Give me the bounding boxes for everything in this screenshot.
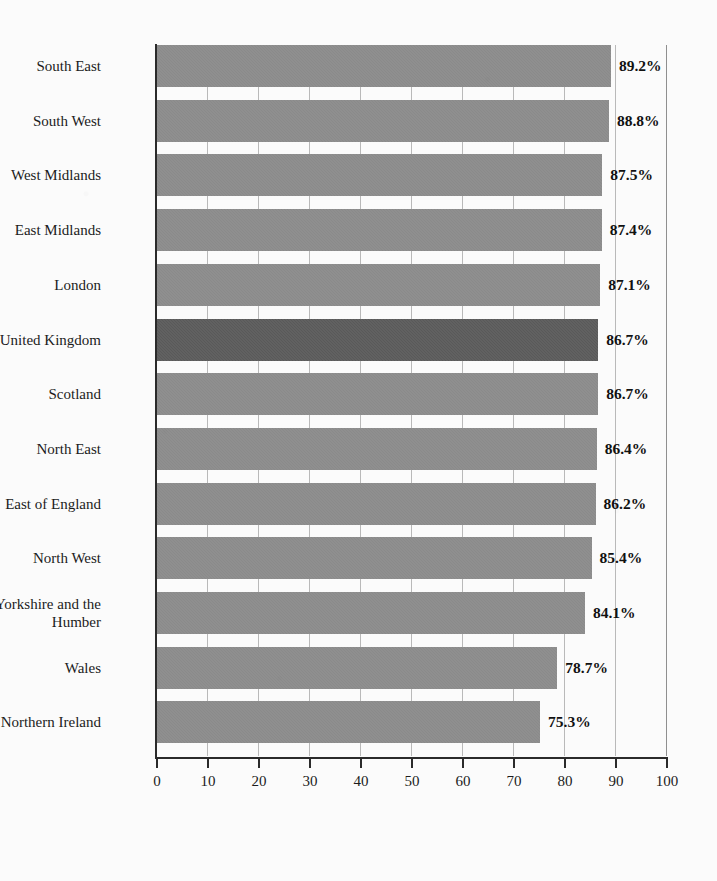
category-label: Wales <box>0 659 101 677</box>
value-label: 87.1% <box>608 276 651 294</box>
x-tick-50 <box>411 757 413 768</box>
bar-row: West Midlands87.5% <box>156 154 666 196</box>
value-label: 78.7% <box>565 659 608 677</box>
category-label: East of England <box>0 495 101 513</box>
category-label: North East <box>0 440 101 458</box>
bar-row: Wales78.7% <box>156 647 666 689</box>
bar-row: Scotland86.7% <box>156 373 666 415</box>
value-label: 86.4% <box>605 440 648 458</box>
bar[interactable] <box>156 483 596 525</box>
x-tick-label: 30 <box>288 772 332 790</box>
bar-chart: South East89.2%South West88.8%West Midla… <box>0 0 717 881</box>
value-label: 88.8% <box>617 112 660 130</box>
bar[interactable] <box>156 100 609 142</box>
bar[interactable] <box>156 592 585 634</box>
x-tick-0 <box>156 757 158 768</box>
bar[interactable] <box>156 209 602 251</box>
category-label: West Midlands <box>0 166 101 184</box>
bar-row: London87.1% <box>156 264 666 306</box>
plot-area: South East89.2%South West88.8%West Midla… <box>156 45 666 756</box>
bar[interactable] <box>156 537 592 579</box>
x-tick-label: 90 <box>594 772 638 790</box>
bar[interactable] <box>156 264 600 306</box>
value-label: 86.7% <box>606 385 649 403</box>
category-label: Northern Ireland <box>0 713 101 731</box>
x-tick-label: 0 <box>135 772 179 790</box>
x-tick-100 <box>666 757 668 768</box>
bar-row: North West85.4% <box>156 537 666 579</box>
value-label: 84.1% <box>593 604 636 622</box>
value-label: 87.5% <box>610 166 653 184</box>
x-tick-label: 10 <box>186 772 230 790</box>
value-label: 89.2% <box>619 57 662 75</box>
x-tick-40 <box>360 757 362 768</box>
value-label: 87.4% <box>610 221 653 239</box>
x-tick-label: 70 <box>492 772 536 790</box>
bar[interactable] <box>156 373 598 415</box>
gridline-100 <box>666 45 667 756</box>
value-label: 86.7% <box>606 331 649 349</box>
bar[interactable] <box>156 45 611 87</box>
value-label: 75.3% <box>548 713 591 731</box>
category-label: North West <box>0 549 101 567</box>
x-tick-label: 60 <box>441 772 485 790</box>
bar-row: South West88.8% <box>156 100 666 142</box>
x-tick-20 <box>258 757 260 768</box>
x-tick-label: 50 <box>390 772 434 790</box>
x-tick-label: 80 <box>543 772 587 790</box>
value-label: 85.4% <box>600 549 643 567</box>
bar-row: United Kingdom86.7% <box>156 319 666 361</box>
bar-row: Northern Ireland75.3% <box>156 701 666 743</box>
category-label: Yorkshire and the Humber <box>0 595 101 631</box>
bar[interactable] <box>156 647 557 689</box>
category-label: London <box>0 276 101 294</box>
x-tick-label: 20 <box>237 772 281 790</box>
category-label: United Kingdom <box>0 331 101 349</box>
bar[interactable] <box>156 701 540 743</box>
value-label: 86.2% <box>604 495 647 513</box>
x-tick-80 <box>564 757 566 768</box>
category-label: South East <box>0 57 101 75</box>
bar-row: North East86.4% <box>156 428 666 470</box>
x-tick-10 <box>207 757 209 768</box>
bar-row: East of England86.2% <box>156 483 666 525</box>
bar-row: South East89.2% <box>156 45 666 87</box>
x-tick-90 <box>615 757 617 768</box>
x-tick-70 <box>513 757 515 768</box>
bar[interactable] <box>156 154 602 196</box>
category-label: South West <box>0 112 101 130</box>
category-label: East Midlands <box>0 221 101 239</box>
x-tick-60 <box>462 757 464 768</box>
y-axis-line <box>155 44 157 758</box>
x-tick-label: 100 <box>645 772 689 790</box>
x-tick-30 <box>309 757 311 768</box>
bar-row: East Midlands87.4% <box>156 209 666 251</box>
bar[interactable] <box>156 428 597 470</box>
bar-highlighted[interactable] <box>156 319 598 361</box>
bar-row: Yorkshire and the Humber84.1% <box>156 592 666 634</box>
x-tick-label: 40 <box>339 772 383 790</box>
category-label: Scotland <box>0 385 101 403</box>
